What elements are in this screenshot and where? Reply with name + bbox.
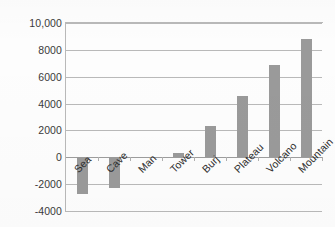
bar-chart: 10,00080006000400020000-2000-4000 SeaCav… <box>0 0 335 227</box>
x-axis-tickmark <box>130 157 131 161</box>
bar-plateau <box>237 96 248 158</box>
x-axis-label-tower: Tower <box>168 147 197 176</box>
x-axis-tickmark <box>322 157 323 161</box>
bar-burj <box>205 126 216 157</box>
bar-mountain <box>301 39 312 157</box>
gridline--4000 <box>66 211 322 212</box>
gridline-10000 <box>66 23 322 24</box>
bar-volcano <box>269 65 280 158</box>
x-axis-tickmark <box>98 157 99 161</box>
x-axis-tickmark <box>258 157 259 161</box>
y-axis-label-10000: 10,000 <box>4 17 62 29</box>
y-axis-label-8000: 8000 <box>4 44 62 56</box>
gridline-8000 <box>66 50 322 51</box>
x-axis-tickmark <box>194 157 195 161</box>
y-axis-tick-labels: 10,00080006000400020000-2000-4000 <box>0 23 62 211</box>
gridline--2000 <box>66 184 322 185</box>
y-axis-label-0: 0 <box>4 151 62 163</box>
gridline-6000 <box>66 77 322 78</box>
x-axis-tickmark <box>226 157 227 161</box>
y-axis-label-6000: 6000 <box>4 71 62 83</box>
y-axis-label--4000: -4000 <box>4 205 62 217</box>
y-axis-label-2000: 2000 <box>4 124 62 136</box>
plot-area: SeaCaveManTowerBurjPlateauVolcanoMountai… <box>66 23 322 211</box>
x-axis-tickmark <box>290 157 291 161</box>
x-axis-tickmark <box>162 157 163 161</box>
gridline-2000 <box>66 130 322 131</box>
x-axis-label-man: Man <box>136 152 159 175</box>
y-axis-label-4000: 4000 <box>4 98 62 110</box>
y-axis-label--2000: -2000 <box>4 178 62 190</box>
gridline-4000 <box>66 104 322 105</box>
